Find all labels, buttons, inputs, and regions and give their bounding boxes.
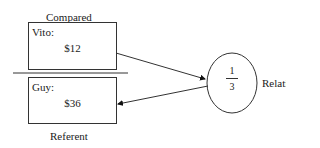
- fraction-denominator: 3: [224, 81, 240, 93]
- arrow-relation-to-referent: [118, 86, 208, 104]
- compared-box: Vito: $12: [28, 22, 117, 70]
- compared-value: $12: [29, 42, 116, 54]
- referent-value: $36: [29, 97, 116, 109]
- relation-label: Relation: [262, 77, 286, 89]
- fraction-numerator: 1: [224, 65, 240, 77]
- compared-name: Vito:: [32, 26, 54, 38]
- fraction-bar: [226, 78, 238, 79]
- referent-name: Guy:: [32, 81, 54, 93]
- arrow-compared-to-relation: [116, 53, 205, 79]
- relation-fraction: 1 3: [224, 65, 240, 93]
- referent-box: Guy: $36: [28, 77, 117, 124]
- referent-label: Referent: [50, 130, 88, 142]
